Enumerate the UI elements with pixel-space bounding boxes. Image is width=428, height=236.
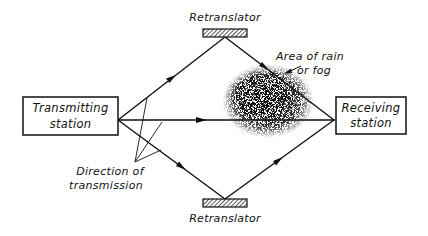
direction-label-line1: Direction of: [76, 165, 145, 178]
retranslator-top-label: Retranslator: [189, 11, 262, 24]
fog-label-line2: or fog: [297, 64, 331, 77]
fog-label-line1: Area of rain: [275, 50, 344, 63]
transmitter-label-line2: station: [50, 117, 92, 131]
direction-label-line2: transmission: [69, 179, 143, 192]
receiver-label-line1: Receiving: [342, 101, 401, 115]
retranslator-top-icon: [203, 29, 247, 37]
retranslator-top: Retranslator: [189, 11, 262, 37]
arrow-icon: [196, 117, 207, 123]
arrow-icon: [176, 162, 186, 171]
receiving-station: Receiving station: [336, 97, 406, 134]
retranslator-bottom-label: Retranslator: [189, 212, 262, 225]
receiver-label-line2: station: [350, 116, 392, 130]
arrow-icon: [273, 157, 283, 166]
transmission-diagram: Transmitting station Receiving station R…: [0, 0, 428, 236]
transmitting-station: Transmitting station: [23, 97, 118, 135]
retranslator-bottom: Retranslator: [189, 199, 262, 225]
transmitter-label-line1: Transmitting: [33, 101, 109, 115]
retranslator-bottom-icon: [203, 199, 247, 207]
direction-annotation: [135, 98, 162, 162]
fog-annotation: Area of rain or fog: [275, 50, 344, 77]
